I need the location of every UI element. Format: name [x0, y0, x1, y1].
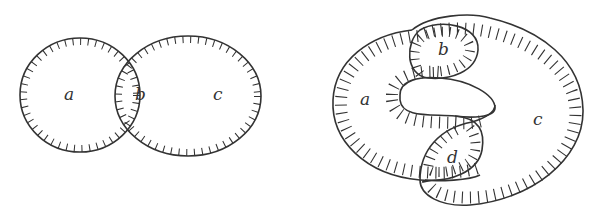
label-a-right: a: [360, 89, 370, 109]
left-figure: a b c: [20, 36, 261, 156]
right-figure: a b c d: [333, 15, 583, 205]
diagram-canvas: a b c a b: [0, 0, 602, 221]
ellipse-a-outline: [20, 38, 140, 152]
label-a-left: a: [64, 84, 74, 104]
label-b-right: b: [438, 39, 449, 59]
hole-outline: [400, 78, 495, 118]
label-b-left: b: [135, 84, 146, 104]
outer-a-outline: [333, 30, 480, 181]
label-c-left: c: [213, 84, 223, 104]
label-d-right: d: [447, 147, 458, 167]
label-c-right: c: [533, 109, 543, 129]
